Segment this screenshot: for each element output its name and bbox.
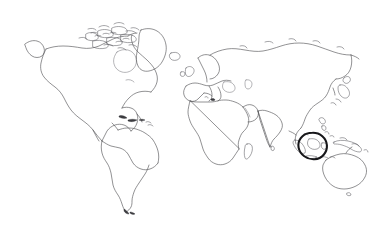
world-map-figure: World map outline with circled region (0, 0, 369, 229)
world-map-canvas (0, 0, 369, 229)
map-background (0, 0, 369, 229)
